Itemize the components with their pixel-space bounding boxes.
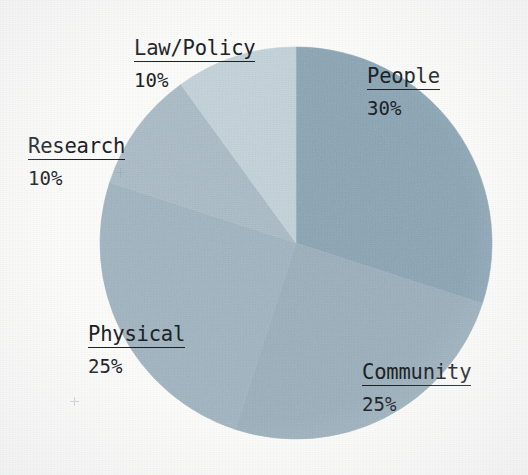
registration-crosshair-icon xyxy=(70,397,79,406)
pie-label-physical-percent: 25% xyxy=(88,355,185,377)
pie-chart: People 30% Community 25% Physical 25% Re… xyxy=(0,0,528,475)
pie-label-community-category: Community xyxy=(362,360,471,386)
pie-label-physical-category: Physical xyxy=(88,322,185,348)
pie-label-physical: Physical 25% xyxy=(88,322,185,378)
pie-label-research: Research 10% xyxy=(28,134,125,190)
pie-label-research-category: Research xyxy=(28,134,125,160)
pie-label-people-percent: 30% xyxy=(367,97,440,119)
pie-label-law-policy: Law/Policy 10% xyxy=(134,36,255,92)
pie-label-people: People 30% xyxy=(367,64,440,120)
pie-label-community-percent: 25% xyxy=(362,393,471,415)
pie-label-law-policy-category: Law/Policy xyxy=(134,36,255,62)
pie-label-law-policy-percent: 10% xyxy=(134,69,255,91)
registration-crosshair-icon xyxy=(116,168,125,177)
pie-label-research-percent: 10% xyxy=(28,167,125,189)
pie-label-community: Community 25% xyxy=(362,360,471,416)
pie-label-people-category: People xyxy=(367,64,440,90)
